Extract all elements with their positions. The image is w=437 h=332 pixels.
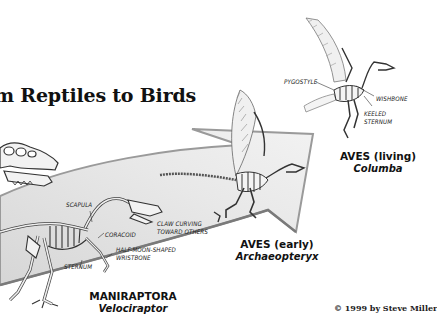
caption-maniraptora-genus: Velociraptor (78, 303, 188, 315)
caption-maniraptora-group: MANIRAPTORA (78, 290, 188, 303)
caption-aves-early: AVES (early) Archaeopteryx (232, 238, 322, 263)
caption-aves-living-group: AVES (living) (328, 150, 428, 163)
caption-aves-living-genus: Columba (328, 163, 428, 175)
label-claw-curving: CLAW CURVING TOWARD OTHERS (157, 220, 208, 235)
diagram-canvas: m Reptiles to Birds SCAPULA CORACOID HAL… (0, 0, 437, 332)
label-keeled-sternum: KEELED STERNUM (364, 110, 392, 125)
caption-aves-living: AVES (living) Columba (328, 150, 428, 175)
caption-aves-early-genus: Archaeopteryx (232, 251, 322, 263)
label-wishbone: WISHBONE (376, 95, 408, 103)
label-keeled-line1: KEELED (364, 110, 392, 118)
caption-maniraptora: MANIRAPTORA Velociraptor (78, 290, 188, 315)
copyright-notice: © 1999 by Steve Miller (334, 303, 437, 313)
label-keeled-line2: STERNUM (364, 118, 392, 126)
page-title: m Reptiles to Birds (0, 84, 196, 106)
label-pygostyle: PYGOSTYLE (284, 78, 317, 86)
label-sternum: STERNUM (64, 263, 92, 271)
caption-aves-early-group: AVES (early) (232, 238, 322, 251)
label-scapula: SCAPULA (66, 201, 92, 209)
label-claw-line2: TOWARD OTHERS (157, 228, 208, 236)
label-claw-line1: CLAW CURVING (157, 220, 208, 228)
label-coracoid: CORACOID (105, 231, 136, 239)
label-wristbone-line1: HALF-MOON-SHAPED (116, 246, 176, 254)
label-wristbone: HALF-MOON-SHAPED WRISTBONE (116, 246, 176, 261)
reptile-skull (0, 143, 58, 186)
label-wristbone-line2: WRISTBONE (116, 254, 176, 262)
